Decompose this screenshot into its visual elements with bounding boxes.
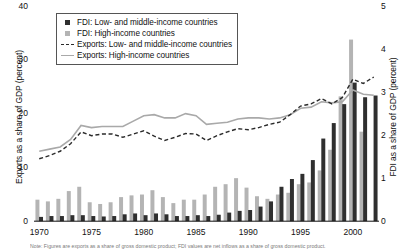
- bar: [133, 213, 137, 221]
- bar: [234, 178, 238, 221]
- bar: [332, 123, 336, 221]
- bars-fdi-low-middle-income: [39, 83, 378, 222]
- bar: [77, 187, 81, 221]
- bar: [102, 216, 106, 221]
- dashed-line-icon: [61, 40, 74, 49]
- legend-item-fdi-high: FDI: High-income countries: [61, 28, 232, 39]
- bar: [39, 217, 43, 221]
- bar: [255, 196, 259, 221]
- light-square-icon: [61, 29, 74, 38]
- bar: [91, 216, 95, 221]
- bar: [119, 197, 123, 221]
- bar: [227, 213, 231, 222]
- bar: [360, 132, 364, 222]
- bar: [185, 216, 189, 221]
- bar: [35, 200, 39, 222]
- x-axis-tick-label: 1975: [82, 227, 101, 237]
- bar: [321, 139, 325, 222]
- bar: [161, 197, 165, 221]
- bar: [56, 199, 60, 221]
- bar: [238, 211, 242, 221]
- bar: [81, 215, 85, 221]
- legend-item-exports-low-middle: Exports: Low- and middle-income countrie…: [61, 39, 232, 50]
- x-axis-tick-label: 1995: [291, 227, 310, 237]
- bar: [213, 187, 217, 221]
- bar: [353, 83, 357, 222]
- bar: [286, 193, 290, 221]
- bar: [206, 216, 210, 221]
- legend-item-fdi-low-middle: FDI: Low- and middle-income countries: [61, 17, 232, 28]
- bar: [290, 179, 294, 221]
- bar: [328, 150, 332, 221]
- bar: [164, 214, 168, 221]
- chart-figure: Exports as a share of GDP (percent) FDI …: [0, 0, 409, 251]
- bar: [171, 203, 175, 221]
- bar: [150, 190, 154, 221]
- bar: [88, 202, 92, 221]
- bar: [175, 216, 179, 221]
- bar: [265, 199, 269, 221]
- bar: [46, 201, 50, 221]
- bar: [60, 216, 64, 221]
- bar: [154, 213, 158, 221]
- bar: [245, 188, 249, 222]
- bar: [112, 216, 116, 221]
- bar: [70, 215, 74, 221]
- bar: [363, 97, 367, 221]
- bar: [67, 191, 71, 221]
- bar: [349, 40, 353, 222]
- bar: [269, 201, 273, 221]
- bar: [279, 187, 283, 221]
- bar: [276, 195, 280, 222]
- chart-note: Note: Figures are exports as a share of …: [30, 243, 405, 250]
- legend-item-exports-high: Exports: High-income countries: [61, 50, 232, 61]
- legend-label: Exports: High-income countries: [77, 51, 189, 60]
- bar: [140, 195, 144, 222]
- x-axis-tick-label: 1970: [30, 227, 49, 237]
- bar: [307, 182, 311, 221]
- x-axis-tick-label: 1980: [134, 227, 153, 237]
- bar: [98, 204, 102, 221]
- bar: [144, 215, 148, 221]
- bar: [49, 216, 53, 221]
- legend-label: FDI: Low- and middle-income countries: [77, 18, 218, 27]
- solid-line-icon: [61, 51, 74, 60]
- legend-label: Exports: Low- and middle-income countrie…: [77, 40, 232, 49]
- chart-legend: FDI: Low- and middle-income countries FD…: [56, 13, 238, 65]
- x-axis-tick-label: 1990: [239, 227, 258, 237]
- bar: [192, 200, 196, 222]
- bar: [196, 215, 200, 221]
- bar: [130, 195, 134, 221]
- legend-label: FDI: High-income countries: [77, 29, 175, 38]
- bar: [259, 207, 263, 222]
- bar: [203, 195, 207, 222]
- bar: [339, 96, 343, 221]
- dark-square-icon: [61, 18, 74, 27]
- bar: [182, 200, 186, 222]
- bar: [109, 202, 113, 221]
- x-axis-tick-label: 2000: [343, 227, 362, 237]
- bar: [297, 184, 301, 221]
- x-axis-tick-label: 1985: [187, 227, 206, 237]
- bar: [123, 214, 127, 221]
- bar: [318, 170, 322, 221]
- bar: [311, 160, 315, 221]
- bar: [217, 215, 221, 221]
- bar: [342, 104, 346, 221]
- bar: [248, 210, 252, 221]
- bar: [374, 96, 378, 222]
- bar: [224, 184, 228, 221]
- bar: [300, 174, 304, 221]
